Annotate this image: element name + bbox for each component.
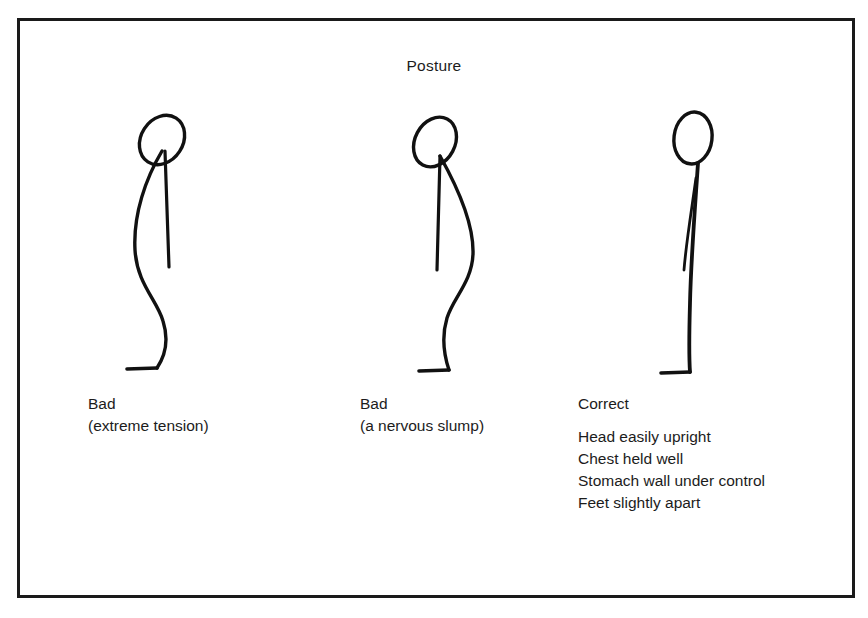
nervous-slump-stick-figure [405,110,473,371]
panel-caption-correct: Correct Head easily upright Chest held w… [578,393,765,514]
panel-caption-bad-tension: Bad (extreme tension) [88,393,209,437]
figure-front-line [437,156,440,270]
figure-foot-line [419,370,449,371]
correct-posture-stick-figure [661,110,715,373]
figure-head-icon [405,110,465,175]
figure-foot-line [661,372,690,373]
caption-heading: Bad [360,393,484,415]
correct-posture-detail-list: Head easily upright Chest held well Stom… [578,426,765,514]
posture-diagram-page: Posture [0,0,868,618]
caption-subheading: (a nervous slump) [360,415,484,437]
list-item: Stomach wall under control [578,470,765,492]
figure-head-icon [671,110,715,166]
figure-body-curve [440,156,473,370]
caption-heading: Bad [88,393,209,415]
figure-head-icon [130,107,194,173]
figure-foot-line [127,368,157,369]
figure-back-line [165,151,169,267]
figure-body-curve [135,151,166,368]
list-item: Head easily upright [578,426,765,448]
caption-heading: Correct [578,393,765,415]
list-item: Chest held well [578,448,765,470]
extreme-tension-stick-figure [127,107,194,369]
panel-caption-bad-slump: Bad (a nervous slump) [360,393,484,437]
list-item: Feet slightly apart [578,492,765,514]
caption-subheading: (extreme tension) [88,415,209,437]
